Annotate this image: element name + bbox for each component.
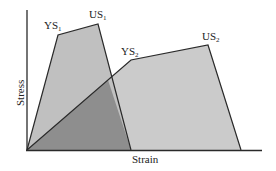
x-axis-label: Strain (132, 154, 158, 165)
ys1-label: YS1 (44, 20, 62, 33)
ys2-label: YS2 (121, 46, 139, 59)
stress-strain-diagram (0, 0, 276, 171)
y-axis-label: Stress (15, 80, 26, 106)
us1-label: US1 (89, 9, 107, 22)
us2-label: US2 (202, 31, 220, 44)
